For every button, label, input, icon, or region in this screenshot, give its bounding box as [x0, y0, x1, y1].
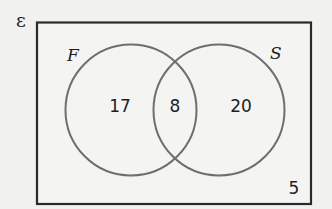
set-s-label: S [270, 45, 282, 62]
intersection-count: 8 [170, 98, 181, 115]
venn-diagram: ε F S 17 8 20 5 [0, 0, 332, 209]
universal-set-symbol: ε [16, 11, 26, 30]
s-only-count: 20 [230, 98, 252, 115]
venn-shapes [0, 0, 332, 209]
f-only-count: 17 [109, 98, 131, 115]
set-f-label: F [67, 47, 79, 64]
outside-count: 5 [289, 180, 300, 197]
